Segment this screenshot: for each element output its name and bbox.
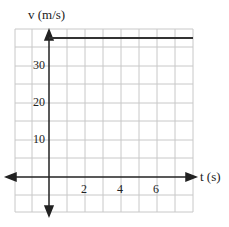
y-tick-30: 30 [33, 58, 45, 73]
x-tick-2: 2 [81, 182, 87, 197]
x-axis-label: t (s) [200, 169, 221, 185]
grid [15, 29, 193, 212]
y-axis-label-text: v (m/s) [28, 7, 65, 23]
velocity-time-graph [0, 0, 229, 227]
y-tick-10: 10 [33, 132, 45, 147]
x-tick-4: 4 [117, 182, 123, 197]
y-tick-20: 20 [33, 95, 45, 110]
x-tick-6: 6 [153, 182, 159, 197]
